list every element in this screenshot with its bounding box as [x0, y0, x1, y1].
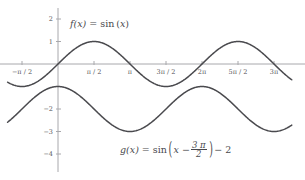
- f-equals: =: [86, 18, 100, 29]
- f-name: f(x): [70, 18, 86, 29]
- g-arg-lead: x −: [174, 144, 190, 155]
- y-tick-label: −3: [43, 128, 53, 136]
- x-axis-ticks: −π / 2π / 2π3π / 22π5π / 23π: [12, 61, 279, 76]
- g-close-paren: ): [209, 140, 213, 159]
- g-sin: sin: [153, 144, 167, 155]
- g-tail: − 2: [214, 144, 231, 155]
- x-tick-label: 3π / 2: [157, 68, 176, 76]
- x-tick-label: π / 2: [87, 68, 102, 76]
- y-tick-label: −4: [43, 150, 53, 158]
- y-tick-label: 1: [49, 38, 53, 46]
- y-tick-label: −2: [43, 105, 53, 113]
- function-label-g: g(x)=sin(x −3 π2)− 2: [120, 141, 231, 160]
- function-label-f: f(x)=sin (x): [70, 19, 129, 29]
- curves-group: [8, 42, 292, 132]
- x-tick-label: −π / 2: [12, 68, 32, 76]
- x-tick-label: π: [128, 68, 133, 76]
- f-sin: sin: [100, 18, 114, 29]
- g-open-paren: (: [168, 140, 172, 159]
- g-equals: =: [139, 144, 153, 155]
- y-tick-label: 2: [49, 15, 53, 23]
- sine-graph-figure: −π / 2π / 2π3π / 22π5π / 23π 21−2−3−4 f(…: [0, 0, 305, 180]
- g-fraction-numerator: 3 π: [191, 141, 207, 150]
- f-close-paren: ): [125, 18, 129, 29]
- x-tick-label: 5π / 2: [229, 68, 248, 76]
- x-tick-label: 2π: [198, 68, 207, 76]
- x-tick-label: 3π: [270, 68, 279, 76]
- g-name: g(x): [120, 144, 139, 155]
- g-fraction: 3 π2: [191, 141, 207, 160]
- g-fraction-denominator: 2: [191, 149, 207, 159]
